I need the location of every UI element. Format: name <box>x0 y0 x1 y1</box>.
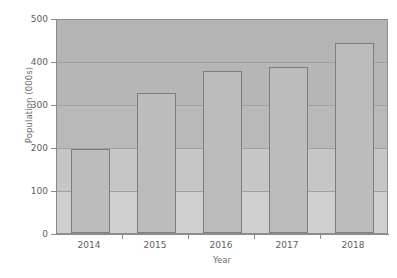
bar-chart: Population (000s) 500 400 300 200 100 0 … <box>0 0 397 278</box>
x-tick-label-2018: 2018 <box>320 240 386 250</box>
plot-area <box>56 19 388 234</box>
x-axis-line <box>56 234 389 235</box>
x-tick-label-2014: 2014 <box>56 240 122 250</box>
y-tick-label-500: 500 <box>18 15 48 24</box>
x-axis-title: Year <box>56 255 388 265</box>
x-tick-label-2017: 2017 <box>254 240 320 250</box>
y-tick-label-400: 400 <box>18 58 48 67</box>
bar-2017 <box>269 67 308 233</box>
x-tick-mark-2 <box>188 234 189 239</box>
y-tick-label-100: 100 <box>18 187 48 196</box>
bar-2015 <box>137 93 176 233</box>
y-tick-label-300: 300 <box>18 101 48 110</box>
y-axis-line <box>56 19 57 235</box>
y-tick-label-200: 200 <box>18 144 48 153</box>
x-tick-label-2015: 2015 <box>122 240 188 250</box>
x-tick-label-2016: 2016 <box>188 240 254 250</box>
bar-2018 <box>335 43 374 233</box>
bar-2014 <box>71 149 110 233</box>
x-tick-mark-1 <box>122 234 123 239</box>
x-tick-mark-3 <box>254 234 255 239</box>
y-tick-label-0: 0 <box>18 230 48 239</box>
x-tick-mark-4 <box>320 234 321 239</box>
bar-2016 <box>203 71 242 233</box>
